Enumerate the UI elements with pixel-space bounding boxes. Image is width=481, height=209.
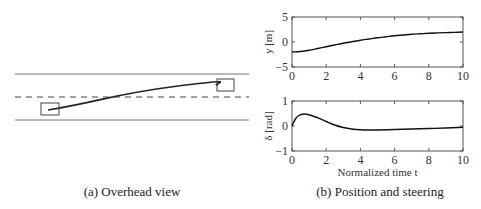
plot-frame	[292, 101, 463, 151]
steering-plot: 0246810−101δ [rad]Normalized time t	[262, 94, 469, 178]
y-tick-label: 0	[282, 35, 288, 49]
y-tick-label: −5	[275, 60, 288, 74]
x-tick-label: 8	[426, 69, 432, 83]
y-axis-label: δ [rad]	[262, 111, 274, 140]
figure: 0246810−505y [m] 0246810−101δ [rad]Norma…	[0, 0, 481, 209]
x-tick-label: 4	[357, 153, 363, 167]
y-tick-label: 1	[282, 94, 288, 108]
position-plot: 0246810−505y [m]	[262, 10, 469, 83]
series-line-y	[292, 32, 463, 52]
y-axis-label: y [m]	[262, 30, 274, 54]
x-tick-label: 6	[392, 69, 398, 83]
series-line-delta	[292, 114, 463, 130]
x-tick-label: 8	[426, 153, 432, 167]
vehicle-trajectory	[48, 82, 221, 110]
vehicle-end-box	[217, 79, 234, 91]
x-tick-label: 0	[289, 153, 295, 167]
caption-overhead-view: (a) Overhead view	[84, 184, 181, 199]
x-tick-label: 4	[357, 69, 363, 83]
y-tick-label: 5	[282, 10, 288, 24]
caption-position-steering: (b) Position and steering	[316, 184, 444, 199]
x-tick-label: 2	[323, 69, 329, 83]
x-tick-label: 0	[289, 69, 295, 83]
y-tick-label: −1	[275, 144, 288, 158]
plot-frame	[292, 17, 463, 67]
overhead-view	[15, 74, 249, 120]
x-tick-label: 10	[457, 69, 469, 83]
x-tick-label: 2	[323, 153, 329, 167]
x-tick-label: 10	[457, 153, 469, 167]
x-tick-label: 6	[392, 153, 398, 167]
x-axis-label: Normalized time t	[337, 166, 417, 178]
y-tick-label: 0	[282, 119, 288, 133]
